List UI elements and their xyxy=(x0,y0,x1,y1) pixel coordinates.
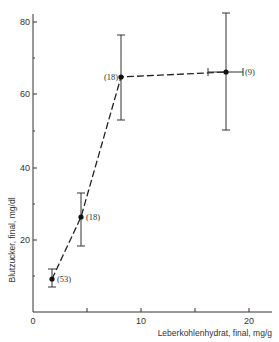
axes xyxy=(33,14,272,312)
y-tick-labels: 80 60 40 20 xyxy=(20,17,30,245)
n-label: (18) xyxy=(104,72,118,82)
n-label: (9) xyxy=(245,67,255,77)
n-label: (53) xyxy=(57,274,71,284)
x-axis-title: Leberkohlenhydrat, final, mg/g xyxy=(158,328,273,338)
chart-canvas: 80 60 40 20 0 10 20 Leberkohlenhydrat, f… xyxy=(0,0,279,342)
data-points xyxy=(49,69,228,281)
sample-size-labels: (53) (18) (18) (9) xyxy=(57,67,255,284)
x-tick-label: 20 xyxy=(244,316,254,326)
x-tick-label: 0 xyxy=(30,316,35,326)
y-tick-label: 60 xyxy=(20,89,30,99)
x-tick-labels: 0 10 20 xyxy=(30,316,254,326)
y-axis-title: Blutzucker, final, mg/dl xyxy=(7,197,17,282)
data-point xyxy=(78,214,83,219)
data-line xyxy=(52,72,226,279)
x-tick-label: 10 xyxy=(136,316,146,326)
data-point xyxy=(49,276,54,281)
y-tick-label: 40 xyxy=(20,163,30,173)
data-point xyxy=(118,74,123,79)
error-bars xyxy=(48,13,243,287)
data-point xyxy=(223,69,228,74)
y-tick-label: 20 xyxy=(20,235,30,245)
n-label: (18) xyxy=(86,212,100,222)
y-tick-label: 80 xyxy=(20,17,30,27)
